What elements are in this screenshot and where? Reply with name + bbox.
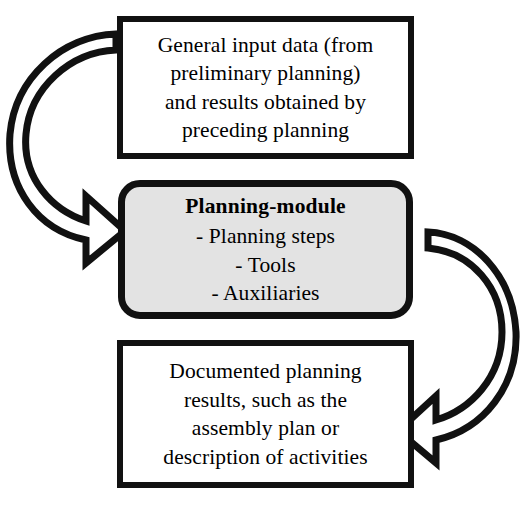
node-output-line-1: Documented planning	[169, 357, 361, 386]
node-output-line-2: results, such as the	[184, 386, 347, 415]
node-output-line-3: assembly plan or	[192, 414, 339, 443]
node-input-line-3: and results obtained by	[165, 88, 366, 117]
arrow-module-to-output	[398, 232, 516, 463]
arrow-input-to-module	[10, 34, 125, 263]
diagram-canvas: General input data (from preliminary pla…	[0, 0, 526, 516]
node-input-line-1: General input data (from	[158, 31, 374, 60]
node-input-line-4: preceding planning	[182, 116, 349, 145]
node-input-data: General input data (from preliminary pla…	[117, 16, 414, 159]
node-planning-module-title: Planning-module	[185, 191, 346, 222]
node-documented-results: Documented planning results, such as the…	[117, 340, 414, 488]
node-planning-module: Planning-module - Planning steps - Tools…	[118, 180, 413, 319]
node-planning-module-item-3: - Auxiliaries	[211, 279, 319, 308]
node-planning-module-item-2: - Tools	[235, 251, 295, 280]
node-output-line-4: description of activities	[163, 443, 367, 472]
node-planning-module-item-1: - Planning steps	[196, 222, 335, 251]
node-input-line-2: preliminary planning)	[170, 59, 360, 88]
